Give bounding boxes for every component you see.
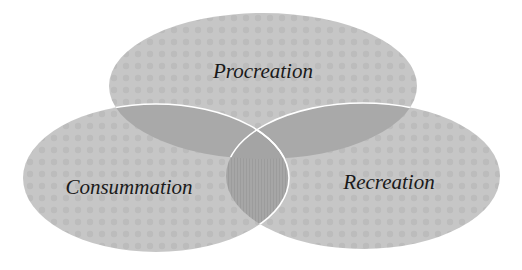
label-consummation: Consummation bbox=[65, 175, 192, 200]
label-procreation: Procreation bbox=[213, 59, 313, 84]
label-recreation: Recreation bbox=[343, 170, 434, 195]
venn-diagram bbox=[0, 0, 522, 270]
